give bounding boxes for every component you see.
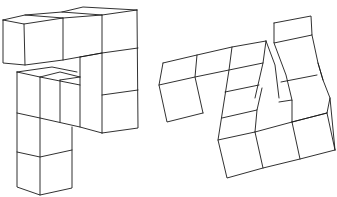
cube-edge [255, 132, 263, 168]
cube-edge [218, 47, 335, 178]
cube-edge [279, 100, 292, 122]
cube-edge [255, 41, 266, 98]
cube-figures-svg [0, 0, 337, 197]
cube-edge [80, 53, 102, 57]
cube-edge [17, 113, 102, 133]
cube-edge [274, 16, 312, 43]
cube-edge [3, 20, 138, 65]
cube-edge [62, 12, 102, 15]
cube-edge [102, 10, 138, 133]
cube-edge [25, 15, 63, 18]
cube-edge [266, 41, 279, 98]
cube-edge [195, 55, 203, 113]
cube-edge [274, 43, 292, 100]
cube-edge [292, 98, 330, 122]
cube-edge [327, 113, 335, 150]
cube-edge [255, 110, 257, 132]
cube-edge [102, 90, 138, 95]
left-cube-assembly [3, 7, 138, 195]
figure-canvas [0, 0, 337, 197]
right-cube-assembly [159, 16, 335, 178]
cube-edge [159, 63, 263, 85]
cube-edge [17, 67, 77, 72]
cube-edge [159, 63, 203, 122]
cube-edge [17, 72, 72, 195]
cube-edge [40, 72, 80, 77]
cube-edge [3, 7, 137, 20]
cube-edge [163, 41, 266, 63]
cube-edge [24, 24, 25, 65]
cube-edge [60, 77, 80, 80]
cube-edge [318, 63, 323, 80]
cube-edge [17, 150, 72, 157]
cube-edge [225, 85, 259, 92]
cube-edge [292, 122, 300, 159]
cube-edge [3, 10, 137, 24]
